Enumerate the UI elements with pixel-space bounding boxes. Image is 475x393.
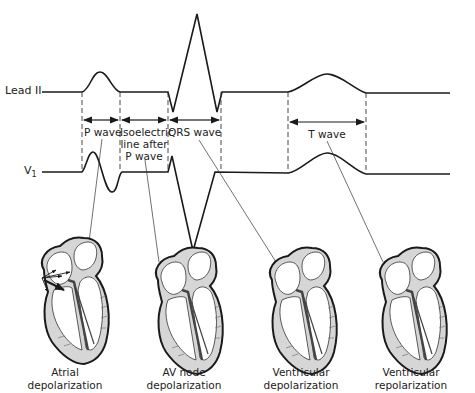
interval-arrows	[84, 120, 364, 122]
caption-av-node: AV nodedepolarization	[129, 366, 239, 392]
lead-ii-trace	[42, 14, 450, 112]
heart-atrial	[42, 237, 109, 364]
t-wave-label: T wave	[288, 128, 366, 140]
caption-atrial: Atrialdepolarization	[10, 366, 120, 392]
isoelectric-label: Isoelectric line after P wave	[120, 126, 168, 162]
caption-ventricular-depol: Ventriculardepolarization	[246, 366, 356, 392]
heart-ventricular-depol	[270, 247, 337, 374]
caption-ventricular-repol: Ventricularrepolarization	[356, 366, 466, 392]
heart-av-node	[156, 247, 223, 374]
p-wave-label: P wave	[84, 126, 120, 138]
v1-label: V1	[24, 164, 37, 179]
v1-trace	[42, 152, 450, 251]
heart-ventricular-repol	[380, 247, 447, 374]
lead-ii-label: Lead II	[5, 84, 41, 97]
ecg-diagram	[0, 0, 475, 393]
qrs-wave-label: QRS wave	[168, 126, 221, 138]
